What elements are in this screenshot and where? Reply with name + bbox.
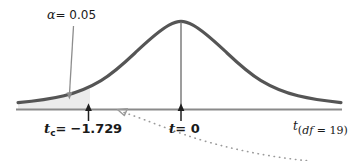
t0-value: = 0 [175, 121, 199, 136]
alpha-leader-line [70, 26, 74, 94]
center-tick-arrowhead [178, 103, 185, 111]
reject-region-pointer-curve [124, 113, 310, 162]
x-axis-label: t(df = 19) [293, 120, 348, 136]
t-distribution-figure: α= 0.05 tc= −1.729 t= 0 t(df = 19) [0, 0, 359, 161]
axis-subscript-value: = 19) [313, 124, 348, 137]
alpha-value: = 0.05 [55, 8, 96, 22]
alpha-annotation-label: α= 0.05 [47, 9, 96, 22]
t-distribution-curve [18, 21, 341, 102]
axis-subscript-df: df [302, 124, 313, 137]
tc-value: = −1.729 [55, 121, 122, 136]
critical-value-label: tc= −1.729 [44, 122, 122, 138]
center-value-label: t= 0 [169, 122, 200, 136]
